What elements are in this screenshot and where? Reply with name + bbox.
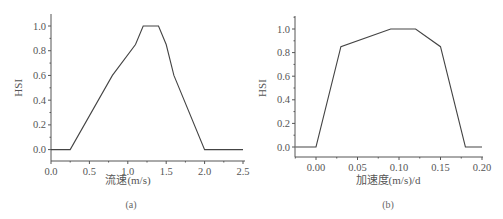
caption-a: (a) [125, 199, 136, 211]
figure: 0.00.20.40.60.81.00.00.51.01.52.02.5流速(m… [0, 0, 503, 219]
x-tick-label: 0.10 [390, 162, 408, 173]
y-tick-label: 0.0 [277, 142, 290, 153]
y-tick-label: 0.8 [277, 47, 290, 58]
x-tick-label: 1.5 [160, 166, 173, 177]
y-axis-label: HSI [12, 79, 24, 97]
x-tick-label: 0.05 [348, 162, 366, 173]
y-tick-label: 0.6 [277, 71, 290, 82]
axes [295, 16, 483, 157]
x-tick-label: 0.00 [307, 162, 325, 173]
y-tick-label: 0.0 [33, 144, 46, 155]
y-tick-label: 0.4 [33, 95, 47, 106]
caption-b: (b) [382, 199, 394, 211]
axes [51, 14, 245, 161]
chart-panel-b: 0.00.20.40.60.81.00.000.050.100.150.20加速… [256, 16, 491, 187]
y-tick-label: 0.4 [277, 94, 291, 105]
x-tick-label: 0.5 [83, 166, 96, 177]
x-tick-label: 0.15 [431, 162, 449, 173]
hsi-curve [51, 26, 243, 150]
x-tick-label: 2.0 [198, 166, 211, 177]
y-tick-label: 1.0 [33, 21, 46, 32]
hsi-curve [295, 29, 482, 147]
x-tick-label: 0.0 [44, 166, 57, 177]
x-axis-label: 加速度(m/s)/d [356, 173, 421, 187]
chart-panel-a: 0.00.20.40.60.81.00.00.51.01.52.02.5流速(m… [12, 14, 250, 187]
y-tick-label: 0.8 [33, 45, 46, 56]
x-axis-label: 流速(m/s) [105, 173, 151, 187]
y-tick-label: 0.2 [33, 119, 46, 130]
y-axis-label: HSI [256, 79, 268, 97]
x-tick-label: 2.5 [236, 166, 249, 177]
y-tick-label: 0.2 [277, 118, 290, 129]
x-tick-label: 0.20 [473, 162, 491, 173]
y-tick-label: 0.6 [33, 70, 46, 81]
y-tick-label: 1.0 [277, 24, 290, 35]
